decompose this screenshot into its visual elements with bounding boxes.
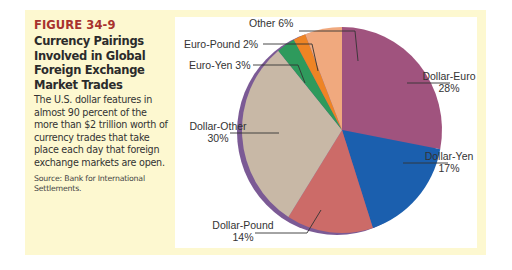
pie-slices <box>242 27 442 233</box>
label-other: Other 6% <box>249 17 293 29</box>
label-dollar-other: Dollar-Other 30% <box>185 120 251 144</box>
figure-description: The U.S. dollar features in almost 90 pe… <box>34 94 170 170</box>
figure-title: Currency Pairings Involved in Global For… <box>34 34 170 92</box>
figure-title-line: Involved in Global <box>34 49 170 64</box>
label-dollar-other-name: Dollar-Other <box>185 120 251 132</box>
label-dollar-euro-name: Dollar-Euro <box>419 70 479 82</box>
figure-title-line: Market Trades <box>34 78 170 93</box>
label-dollar-euro: Dollar-Euro 28% <box>419 70 479 94</box>
label-dollar-pound: Dollar-Pound 14% <box>205 219 281 243</box>
label-dollar-yen-name: Dollar-Yen <box>420 150 478 162</box>
label-euro-yen: Euro-Yen 3% <box>189 59 251 71</box>
figure-title-line: Foreign Exchange <box>34 63 170 78</box>
figure-title-line: Currency Pairings <box>34 34 170 49</box>
label-dollar-other-pct: 30% <box>185 132 251 144</box>
chart-area: Other 6% Euro-Pound 2% Euro-Yen 3% Dolla… <box>175 17 477 248</box>
label-dollar-yen-pct: 17% <box>420 162 478 174</box>
label-dollar-pound-pct: 14% <box>205 231 281 243</box>
figure-number: FIGURE 34-9 <box>34 18 170 32</box>
figure-caption: FIGURE 34-9 Currency Pairings Involved i… <box>34 18 170 195</box>
label-dollar-euro-pct: 28% <box>419 82 479 94</box>
label-dollar-yen: Dollar-Yen 17% <box>420 150 478 174</box>
label-euro-pound: Euro-Pound 2% <box>184 38 258 50</box>
figure-source: Source: Bank for International Settlemen… <box>34 174 170 195</box>
label-dollar-pound-name: Dollar-Pound <box>205 219 281 231</box>
